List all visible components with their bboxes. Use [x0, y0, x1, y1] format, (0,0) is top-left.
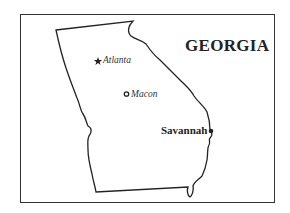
star-icon — [94, 57, 102, 65]
map-title: GEORGIA — [185, 36, 269, 56]
filled-dot-icon — [209, 129, 214, 134]
open-circle-icon — [124, 92, 128, 96]
city-label-macon: Macon — [131, 89, 157, 99]
city-label-atlanta: Atlanta — [103, 55, 131, 65]
city-label-savannah: Savannah — [161, 124, 207, 136]
georgia-outline — [0, 0, 290, 213]
